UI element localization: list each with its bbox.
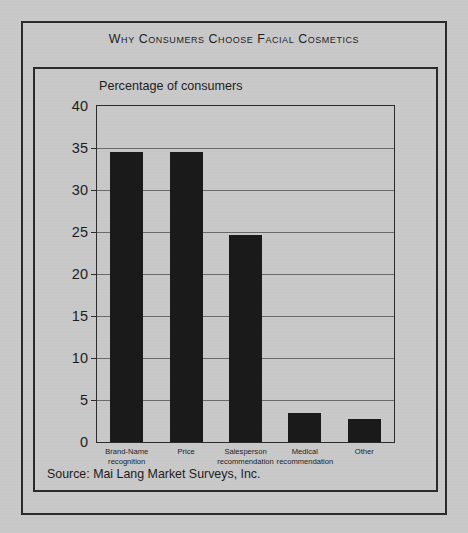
y-axis-tick-label: 15: [72, 308, 88, 324]
y-axis-tick-label: 20: [72, 266, 88, 282]
category-label-line-1: Medical: [292, 447, 318, 456]
category-label-line-1: Other: [355, 447, 374, 456]
category-label-line-1: Brand-Name: [105, 447, 148, 456]
x-axis-labels-group: Brand-NamerecognitionPriceSalespersonrec…: [97, 106, 394, 442]
chart-panel: Percentage of consumers 4035302520151050…: [33, 67, 438, 492]
source-note: Source: Mai Lang Market Surveys, Inc.: [47, 467, 260, 481]
y-axis-tick-label: 10: [72, 350, 88, 366]
y-axis-tick-label: 25: [72, 224, 88, 240]
y-axis-tick-label: 35: [72, 140, 88, 156]
category-label-line-2: recommendation: [268, 457, 342, 467]
figure-page: Why Consumers Choose Facial Cosmetics Pe…: [0, 0, 468, 533]
x-axis-category-label: Other: [327, 447, 401, 457]
category-label-line-2: recognition: [90, 457, 164, 467]
category-label-line-1: Salesperson: [224, 447, 266, 456]
category-label-line-1: Price: [177, 447, 194, 456]
y-axis-tick-label: 5: [80, 392, 88, 408]
y-axis-tick-label: 30: [72, 182, 88, 198]
y-axis-tick-label: 40: [72, 98, 88, 114]
y-axis-tick-label: 0: [80, 434, 88, 450]
page-title: Why Consumers Choose Facial Cosmetics: [21, 32, 447, 46]
plot-area: 4035302520151050 Brand-NamerecognitionPr…: [96, 105, 395, 443]
y-axis-caption: Percentage of consumers: [99, 79, 243, 93]
